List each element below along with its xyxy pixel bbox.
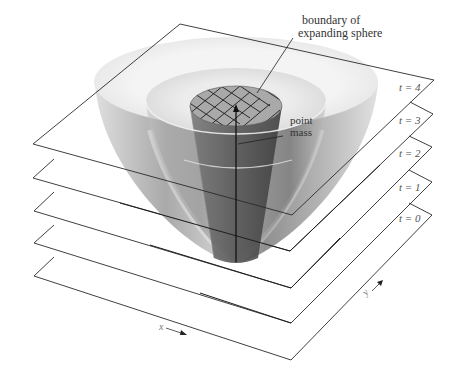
spacetime-diagram: boundary of expanding sphere point mass … bbox=[0, 0, 459, 376]
time-label-t0: t = 0 bbox=[399, 212, 421, 224]
y-axis-indicator: y bbox=[359, 280, 383, 298]
time-label-t4: t = 4 bbox=[399, 81, 421, 93]
y-axis-label: y bbox=[359, 286, 371, 298]
time-label-t2: t = 2 bbox=[399, 147, 421, 159]
arrow-right-icon bbox=[180, 330, 187, 335]
boundary-label-line2: expanding sphere bbox=[298, 26, 382, 40]
time-label-t3: t = 3 bbox=[399, 114, 421, 126]
x-axis-label: x bbox=[158, 321, 164, 332]
point-mass-label-line2: mass bbox=[290, 126, 312, 138]
boundary-label-line1: boundary of bbox=[302, 13, 360, 27]
time-label-t1: t = 1 bbox=[399, 181, 420, 193]
x-axis-indicator: x bbox=[158, 321, 187, 335]
point-mass-label-line1: point bbox=[290, 114, 313, 126]
